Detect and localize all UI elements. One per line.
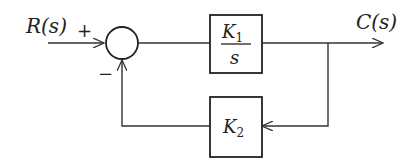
minus-sign: − bbox=[98, 63, 113, 84]
block-diagram: R(s) + − K1 s C(s) K2 bbox=[0, 0, 416, 165]
feedback-branch-line bbox=[262, 43, 328, 126]
output-label: C(s) bbox=[356, 10, 397, 34]
feedback-return-line bbox=[122, 60, 210, 126]
plus-sign: + bbox=[77, 20, 92, 41]
summing-junction bbox=[106, 27, 138, 59]
forward-block-denominator: s bbox=[230, 47, 239, 68]
input-label: R(s) bbox=[25, 14, 67, 38]
